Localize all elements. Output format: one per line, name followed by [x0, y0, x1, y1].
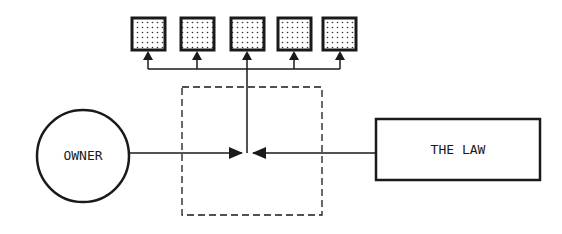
diagram-canvas: OWNER THE LAW [0, 0, 562, 234]
arrow-right-icon [229, 147, 243, 159]
output-squares [132, 18, 356, 50]
up-arrow-icons [143, 51, 345, 60]
arrow-up-icon [242, 51, 252, 60]
output-square-1 [132, 18, 165, 50]
output-square-5 [323, 18, 356, 50]
arrow-up-icon [289, 51, 299, 60]
owner-label: OWNER [63, 148, 102, 163]
law-node: THE LAW [376, 119, 540, 180]
law-label: THE LAW [431, 142, 486, 157]
output-square-4 [278, 18, 311, 50]
output-square-3 [231, 18, 264, 50]
output-square-2 [181, 18, 214, 50]
arrow-left-icon [252, 147, 266, 159]
arrow-up-icon [335, 51, 345, 60]
owner-node: OWNER [37, 110, 129, 202]
arrow-up-icon [192, 51, 202, 60]
distribution-bus [148, 58, 340, 153]
arrow-up-icon [143, 51, 153, 60]
control-zone-dashed-box [182, 87, 322, 215]
